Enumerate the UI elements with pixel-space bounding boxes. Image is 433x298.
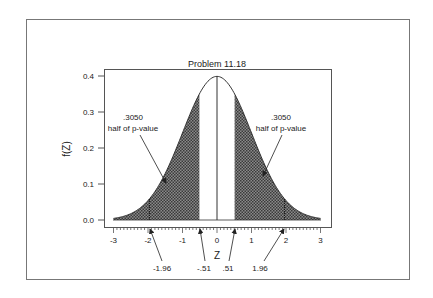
callout-arrow-m196 [150, 229, 162, 261]
y-tick-label: 0.2 [83, 144, 95, 153]
callout-label-m051: -.51 [197, 264, 211, 273]
callout-label-m196: -1.96 [153, 264, 172, 273]
callout-arrow-196 [264, 229, 284, 261]
y-tick-label: 0.1 [83, 180, 95, 189]
callout-label-196: 1.96 [252, 264, 268, 273]
y-axis-label: f(Z) [61, 141, 72, 157]
callout-label-051: .51 [222, 264, 234, 273]
x-tick-label: -3 [110, 236, 118, 245]
y-tick-label: 0.4 [83, 72, 95, 81]
chart-title: Problem 11.18 [188, 59, 246, 69]
x-tick-label: 3 [318, 236, 323, 245]
x-axis-label: Z [214, 250, 220, 261]
y-tick-label: 0.0 [83, 216, 95, 225]
y-axis [98, 76, 104, 220]
x-tick-label: 0 [215, 236, 220, 245]
chart-figure: Problem 11.18 0.4 0.3 0.2 0.1 0.0 f(Z) -… [0, 0, 433, 298]
callout-arrow-051 [229, 229, 235, 261]
x-tick-label: 2 [284, 236, 289, 245]
annotation-right-text: half of p-value [256, 124, 307, 133]
annotation-left-text: half of p-value [108, 124, 159, 133]
x-tick-label: 1 [249, 236, 254, 245]
plot-area [105, 70, 332, 228]
x-axis [114, 227, 321, 233]
annotation-left-value: .3050 [123, 113, 144, 122]
x-tick-label: -2 [144, 236, 152, 245]
callout-arrow-m051 [200, 229, 205, 261]
annotation-right-value: .3050 [271, 113, 292, 122]
x-tick-label: -1 [179, 236, 187, 245]
y-tick-label: 0.3 [83, 108, 95, 117]
